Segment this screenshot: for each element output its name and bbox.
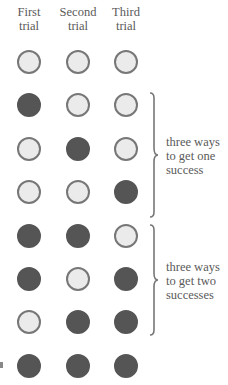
failure-circle — [17, 310, 41, 334]
label-line: to get one — [166, 149, 220, 163]
group-label-two-successes: three ways to get two successes — [166, 260, 220, 302]
success-circle — [114, 354, 138, 378]
failure-circle — [66, 267, 90, 291]
failure-circle — [17, 180, 41, 204]
header-first-trial: First trial — [4, 5, 54, 33]
header-line: trial — [4, 19, 54, 33]
label-line: successes — [166, 288, 220, 302]
margin-mark — [0, 362, 3, 368]
header-line: Second — [53, 5, 103, 19]
failure-circle — [114, 137, 138, 161]
success-circle — [17, 267, 41, 291]
label-line: success — [166, 163, 220, 177]
header-line: trial — [101, 19, 151, 33]
failure-circle — [114, 93, 138, 117]
failure-circle — [66, 180, 90, 204]
success-circle — [114, 310, 138, 334]
failure-circle — [66, 50, 90, 74]
success-circle — [17, 224, 41, 248]
failure-circle — [114, 50, 138, 74]
failure-circle — [66, 93, 90, 117]
success-circle — [66, 354, 90, 378]
failure-circle — [114, 224, 138, 248]
success-circle — [66, 310, 90, 334]
label-line: to get two — [166, 274, 220, 288]
label-line: three ways — [166, 260, 220, 274]
header-third-trial: Third trial — [101, 5, 151, 33]
brace-icon — [148, 92, 160, 218]
failure-circle — [17, 50, 41, 74]
header-second-trial: Second trial — [53, 5, 103, 33]
header-line: trial — [53, 19, 103, 33]
failure-circle — [17, 137, 41, 161]
success-circle — [66, 224, 90, 248]
group-label-one-success: three ways to get one success — [166, 135, 220, 177]
header-line: First — [4, 5, 54, 19]
success-circle — [17, 354, 41, 378]
label-line: three ways — [166, 135, 220, 149]
success-circle — [114, 180, 138, 204]
success-circle — [17, 93, 41, 117]
brace-icon — [148, 224, 160, 336]
success-circle — [66, 137, 90, 161]
success-circle — [114, 267, 138, 291]
header-line: Third — [101, 5, 151, 19]
